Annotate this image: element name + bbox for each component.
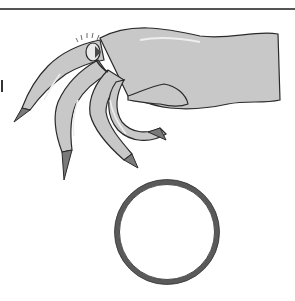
hand-and-ring-illustration (0, 0, 295, 301)
hand (22, 28, 280, 160)
fingernails (14, 108, 166, 180)
plain-ring (115, 180, 220, 285)
